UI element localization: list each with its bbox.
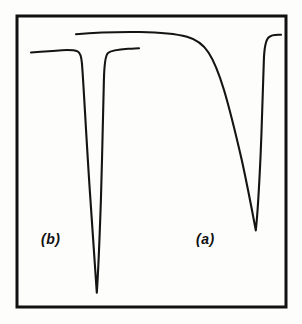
figure-container: (b) (a) <box>0 0 302 324</box>
plot-background <box>0 0 302 324</box>
trace-label-a: (a) <box>196 231 215 247</box>
trace-label-b: (b) <box>41 231 60 247</box>
spectrum-plot <box>0 0 302 324</box>
